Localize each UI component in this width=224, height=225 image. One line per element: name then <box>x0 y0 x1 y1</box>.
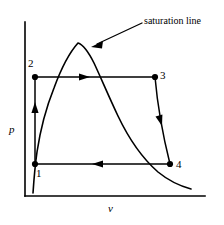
state-point-2-marker <box>32 74 38 80</box>
arrow-head-4-1 <box>92 160 103 167</box>
state-point-4-marker <box>167 161 173 167</box>
process-line-3-4 <box>155 77 170 164</box>
arrow-head-2-3 <box>79 73 90 80</box>
arrow-head-3-4 <box>156 115 163 127</box>
saturation-line-annotation: saturation line <box>144 16 201 26</box>
x-axis-label: v <box>108 203 113 214</box>
saturation-curve <box>33 43 191 193</box>
cycle-processes-group <box>31 73 170 167</box>
arrow-head-1-2 <box>31 102 38 113</box>
y-axis-label: p <box>9 124 15 135</box>
saturation-leader-arrow-icon <box>91 41 103 49</box>
state-label-2: 2 <box>28 58 34 69</box>
state-point-3-marker <box>152 74 158 80</box>
saturation-curve-group <box>33 43 191 193</box>
saturation-leader-group <box>91 23 142 49</box>
state-label-1: 1 <box>36 168 42 179</box>
saturation-leader-line <box>97 23 142 44</box>
diagram-canvas <box>0 0 224 225</box>
pv-diagram-figure: 1 2 3 4 p v saturation line <box>0 0 224 225</box>
state-label-3: 3 <box>160 70 166 81</box>
state-point-markers-group <box>32 74 173 167</box>
state-label-4: 4 <box>176 159 182 170</box>
